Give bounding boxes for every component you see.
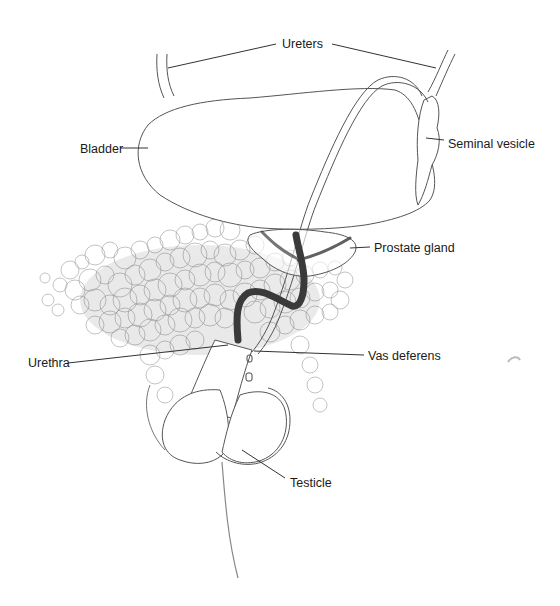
testicles <box>146 385 290 464</box>
label-prostate-gland: Prostate gland <box>374 242 455 255</box>
label-bladder: Bladder <box>80 143 123 156</box>
label-urethra: Urethra <box>28 357 70 370</box>
shading-tail <box>222 462 238 578</box>
reproductive-anatomy-illustration <box>0 0 560 606</box>
label-testicle: Testicle <box>290 477 332 490</box>
label-seminal-vesicle: Seminal vesicle <box>448 138 535 151</box>
bladder-outline <box>138 89 435 230</box>
label-vas-deferens: Vas deferens <box>368 350 441 363</box>
faint-mark <box>508 357 520 362</box>
ureters <box>157 50 455 98</box>
label-ureters: Ureters <box>282 38 323 51</box>
